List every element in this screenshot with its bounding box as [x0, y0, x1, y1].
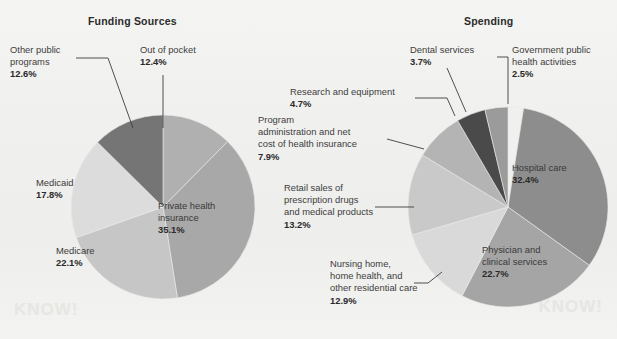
label-other-public-programs-pct: 12.6%	[10, 68, 37, 79]
label-retail-sales-prescription-drugs: Retail sales of prescription drugs and m…	[284, 182, 404, 231]
label-dental-services: Dental services 3.7%	[410, 44, 510, 68]
label-government-public-health-pct: 2.5%	[512, 68, 533, 79]
label-program-administration: Program administration and net cost of h…	[258, 114, 388, 163]
label-medicaid-name: Medicaid	[36, 177, 74, 188]
label-retail-sales-l2: prescription drugs	[284, 194, 359, 205]
label-private-health-insurance-l1: Private health	[158, 200, 215, 211]
label-private-health-insurance-pct: 35.1%	[158, 224, 185, 235]
label-other-public-programs: Other public programs 12.6%	[10, 44, 100, 81]
label-nursing-home-l3: other residential care	[330, 282, 418, 293]
label-hospital-care-pct: 32.4%	[512, 174, 539, 185]
label-hospital-care-l1: Hospital care	[512, 162, 567, 173]
label-research-and-equipment-name: Research and equipment	[290, 86, 395, 97]
label-research-and-equipment-pct: 4.7%	[290, 98, 311, 109]
label-hospital-care: Hospital care 32.4%	[512, 162, 602, 186]
label-medicaid-pct: 17.8%	[36, 189, 63, 200]
label-physician-pct: 22.7%	[482, 268, 509, 279]
label-dental-services-name: Dental services	[410, 44, 474, 55]
label-government-public-health: Government public health activities 2.5%	[512, 44, 617, 81]
label-out-of-pocket-pct: 12.4%	[140, 56, 167, 67]
label-other-public-programs-l1: Other public	[10, 44, 61, 55]
leader-other-public-2	[108, 58, 133, 128]
figure-canvas: KNOW! KNOW! Funding Sources Spending Out…	[0, 0, 617, 339]
leader-program	[387, 139, 424, 149]
label-medicare-pct: 22.1%	[56, 257, 83, 268]
label-medicare-name: Medicare	[56, 245, 95, 256]
label-nursing-home-pct: 12.9%	[330, 295, 357, 306]
label-physician-l2: clinical services	[482, 256, 547, 267]
label-dental-services-pct: 3.7%	[410, 56, 431, 67]
label-government-public-health-l2: health activities	[512, 56, 576, 67]
label-out-of-pocket: Out of pocket 12.4%	[140, 44, 250, 68]
label-private-health-insurance-l2: insurance	[158, 212, 199, 223]
label-program-administration-l1: Program	[258, 114, 294, 125]
label-research-and-equipment: Research and equipment 4.7%	[290, 86, 418, 110]
label-retail-sales-l3: and medical products	[284, 206, 373, 217]
leader-research-2	[447, 98, 455, 116]
label-program-administration-l2: administration and net	[258, 126, 350, 137]
label-physician-l1: Physician and	[482, 244, 540, 255]
label-retail-sales-pct: 13.2%	[284, 219, 311, 230]
label-physician-clinical-services: Physician and clinical services 22.7%	[482, 244, 578, 281]
label-out-of-pocket-name: Out of pocket	[140, 44, 196, 55]
label-medicare: Medicare 22.1%	[56, 245, 136, 269]
label-nursing-home-l1: Nursing home,	[330, 258, 391, 269]
label-medicaid: Medicaid 17.8%	[36, 177, 116, 201]
label-private-health-insurance: Private health insurance 35.1%	[158, 200, 248, 237]
label-other-public-programs-l2: programs	[10, 56, 50, 67]
label-nursing-home: Nursing home, home health, and other res…	[330, 258, 452, 307]
label-government-public-health-l1: Government public	[512, 44, 591, 55]
label-program-administration-l3: cost of health insurance	[258, 138, 357, 149]
label-retail-sales-l1: Retail sales of	[284, 182, 343, 193]
label-program-administration-pct: 7.9%	[258, 151, 279, 162]
label-nursing-home-l2: home health, and	[330, 270, 402, 281]
